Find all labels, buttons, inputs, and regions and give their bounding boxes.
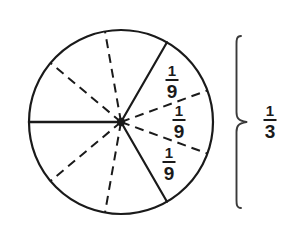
- radius-lower-left-inner: [105, 122, 121, 213]
- fraction-numerator: 1: [166, 63, 179, 78]
- fraction-denominator: 3: [264, 122, 277, 141]
- fraction-denominator: 9: [163, 164, 176, 183]
- brace-label-one-third: 1 3: [264, 103, 277, 141]
- fraction-denominator: 9: [173, 122, 186, 141]
- sector-label-one-ninth-upper: 1 9: [166, 63, 179, 101]
- radius-lower-right-boundary: [121, 122, 167, 202]
- radius-right-upper-divider: [121, 91, 207, 123]
- fraction-numerator: 1: [264, 103, 277, 118]
- radius-upper-left-outer: [51, 63, 122, 122]
- curly-brace: [237, 36, 247, 208]
- fraction-denominator: 9: [166, 82, 179, 101]
- fraction-circle-graphic: [0, 0, 293, 242]
- radius-upper-left-inner: [105, 31, 121, 122]
- sector-label-one-ninth-lower: 1 9: [163, 145, 176, 183]
- radius-upper-right-boundary: [121, 42, 167, 122]
- sector-label-one-ninth-middle: 1 9: [173, 103, 186, 141]
- fraction-numerator: 1: [173, 103, 186, 118]
- fraction-circle-figure: 1 9 1 9 1 9 1 3: [0, 0, 293, 242]
- center-point-dot: [117, 118, 125, 126]
- radius-lower-left-outer: [51, 122, 122, 181]
- fraction-numerator: 1: [163, 145, 176, 160]
